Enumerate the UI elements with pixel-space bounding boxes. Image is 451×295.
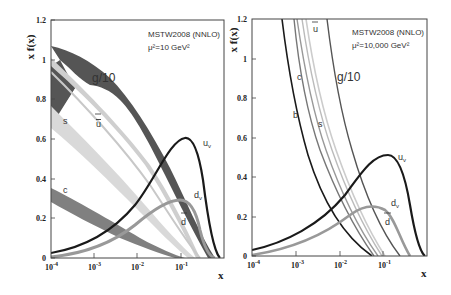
left-label-dbar: d	[181, 217, 186, 227]
right-label-b: b	[293, 110, 298, 120]
svg-text:10-3: 10-3	[88, 261, 101, 272]
right-label-dbar: d	[385, 217, 390, 227]
left-x-axis-title: x	[218, 269, 224, 281]
left-ytick-1.2: 1.2	[36, 16, 46, 25]
svg-text:10-4: 10-4	[247, 259, 260, 270]
svg-text:0.8: 0.8	[237, 94, 247, 103]
right-label-uv: uv	[398, 152, 406, 163]
svg-text:10-1: 10-1	[378, 259, 391, 270]
left-y-tick-labels: 0 0.2 0.4 0.6 0.8 1 1.2	[36, 16, 46, 263]
right-x-axis-title: x	[421, 267, 427, 279]
svg-text:10-2: 10-2	[131, 261, 144, 272]
left-chart: x f(x) 0 0.2 0.4 0.6 0.8 1 1.2 10-4 10-3…	[24, 16, 224, 281]
left-label-c: c	[63, 185, 68, 195]
svg-text:0.4: 0.4	[237, 173, 247, 182]
right-dv-curve	[252, 206, 410, 256]
svg-text:0.2: 0.2	[237, 213, 247, 222]
left-ytick-0.8: 0.8	[36, 95, 46, 104]
right-ticks	[252, 59, 383, 256]
right-uv-curve	[252, 155, 425, 256]
left-ytick-1: 1	[42, 56, 46, 65]
left-label-uv: uv	[203, 138, 211, 149]
left-label-s: s	[63, 116, 68, 126]
right-label-dv: dv	[391, 198, 399, 209]
right-bottom-curve	[282, 19, 372, 256]
left-label-ubar: u	[96, 119, 101, 129]
left-label-gluon: g/10	[92, 71, 116, 85]
left-x-tick-labels: 10-4 10-3 10-2 10-1	[45, 261, 188, 272]
right-scale-label: μ²=10,000 GeV²	[352, 41, 410, 50]
right-label-s: s	[318, 119, 323, 129]
left-y-axis-title: x f(x)	[24, 34, 37, 59]
right-x-tick-labels: 10-4 10-3 10-2 10-1	[247, 259, 391, 270]
left-label-dv: dv	[194, 190, 202, 201]
left-ytick-0.2: 0.2	[36, 214, 46, 223]
right-label-gluon: g/10	[337, 70, 361, 84]
svg-text:0: 0	[243, 252, 247, 261]
left-scale-label: μ²=10 GeV²	[148, 43, 190, 52]
svg-text:10-1: 10-1	[175, 261, 188, 272]
right-plot-frame	[252, 19, 427, 256]
right-chart: x f(x) 0 0.2 0.4 0.6 0.8 1 1.2 10-4 10-3…	[227, 15, 427, 279]
svg-text:0.6: 0.6	[237, 134, 247, 143]
svg-text:10-4: 10-4	[45, 261, 58, 272]
left-ytick-0: 0	[42, 254, 46, 263]
right-label-ubar: u	[313, 24, 318, 34]
svg-text:10-3: 10-3	[291, 259, 304, 270]
right-label-c: c	[297, 72, 302, 82]
svg-text:1: 1	[243, 55, 247, 64]
right-y-axis-title: x f(x)	[227, 27, 240, 52]
svg-text:10-2: 10-2	[334, 259, 347, 270]
svg-text:1.2: 1.2	[237, 15, 247, 24]
left-ytick-0.4: 0.4	[36, 175, 46, 184]
left-chart-title: MSTW2008 (NNLO)	[148, 30, 220, 39]
right-chart-title: MSTW2008 (NNLO)	[352, 28, 424, 37]
left-ytick-0.6: 0.6	[36, 135, 46, 144]
